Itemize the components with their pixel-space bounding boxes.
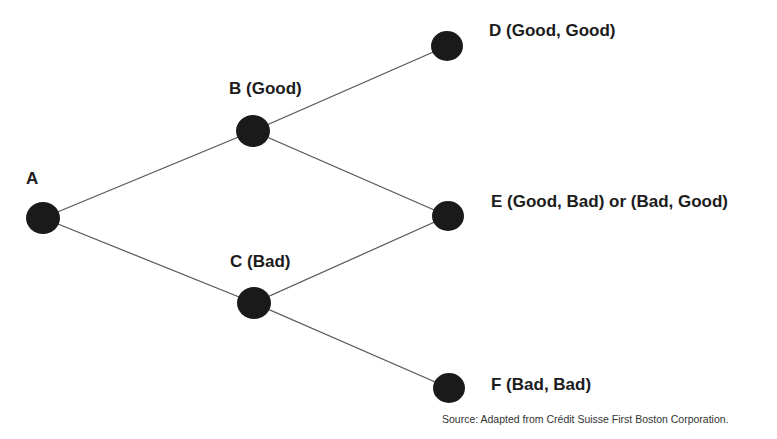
tree-diagram [0,0,777,439]
label-f: F (Bad, Bad) [491,376,591,393]
node-a [26,202,60,234]
node-d [431,31,463,61]
edge-c-f [254,303,449,388]
edge-b-e [253,131,448,216]
node-f [433,373,465,403]
edge-a-c [43,218,254,303]
edge-a-b [43,131,253,218]
label-e: E (Good, Bad) or (Bad, Good) [491,193,728,210]
node-b [236,115,270,147]
label-b: B (Good) [229,80,302,97]
label-c: C (Bad) [230,253,290,270]
node-e [432,201,464,231]
label-a: A [26,170,38,187]
label-d: D (Good, Good) [489,22,616,39]
source-caption: Source: Adapted from Crédit Suisse First… [442,414,729,425]
node-c [237,287,271,319]
